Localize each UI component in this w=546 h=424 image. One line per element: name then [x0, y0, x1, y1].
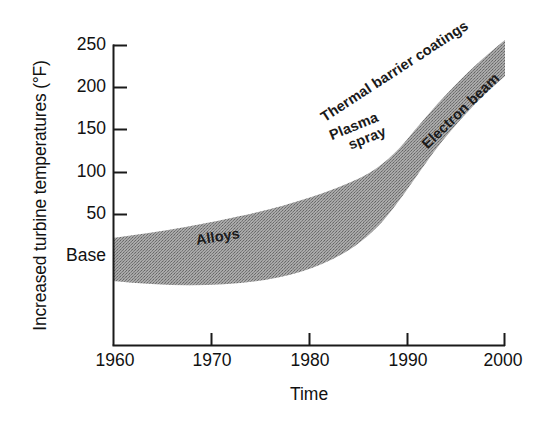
x-tick-label-1960: 1960 [80, 352, 150, 370]
capability-band [113, 40, 505, 285]
chart-figure: 250 200 150 100 50 Base 1960 1970 1980 1… [0, 0, 546, 424]
x-tick-marks [212, 333, 505, 346]
y-tick-label-150: 150 [48, 120, 106, 138]
y-tick-label-200: 200 [48, 78, 106, 96]
y-tick-marks [113, 46, 127, 215]
x-tick-labels: 1960 1970 1980 1990 2000 [0, 352, 546, 378]
y-axis-title: Increased turbine temperatures (°F) [30, 36, 51, 356]
y-tick-label-250: 250 [48, 36, 106, 54]
x-tick-label-2000: 2000 [468, 352, 538, 370]
x-tick-label-1990: 1990 [373, 352, 443, 370]
x-tick-label-1970: 1970 [177, 352, 247, 370]
y-tick-label-100: 100 [48, 163, 106, 181]
x-axis-title: Time [113, 384, 505, 405]
y-tick-label-base: Base [48, 247, 106, 265]
y-tick-label-50: 50 [48, 205, 106, 223]
x-tick-label-1980: 1980 [275, 352, 345, 370]
